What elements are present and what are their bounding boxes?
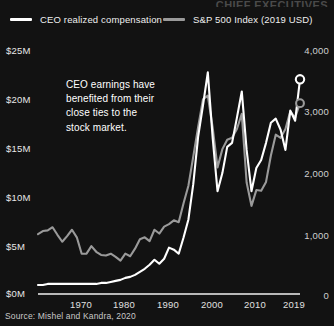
legend-label-sp500: S&P 500 Index (2019 USD) [193, 14, 313, 25]
plot-svg [0, 30, 334, 302]
chart-container: CHIEF EXECUTIVES CEO realized compensati… [0, 0, 334, 326]
annotation-line-3: close ties to the [66, 106, 191, 120]
legend-label-ceo: CEO realized compensation [40, 14, 162, 25]
endpoint-marker-sp500 [296, 99, 304, 107]
legend-swatch-sp500 [163, 18, 185, 21]
cut-off-title: CHIEF EXECUTIVES [0, 0, 334, 7]
legend-item-ceo[interactable]: CEO realized compensation [10, 11, 162, 27]
legend-item-sp500[interactable]: S&P 500 Index (2019 USD) [163, 11, 313, 27]
source-credit: Source: Mishel and Kandra, 2020 [5, 311, 136, 321]
endpoint-marker-ceo [296, 75, 304, 83]
chart-annotation: CEO earnings have benefited from their c… [66, 78, 191, 135]
annotation-line-2: benefited from their [66, 92, 191, 106]
plot-area [0, 30, 334, 302]
annotation-line-1: CEO earnings have [66, 78, 191, 92]
legend-swatch-ceo [10, 18, 32, 21]
chart-legend: CEO realized compensation S&P 500 Index … [0, 11, 334, 27]
annotation-line-4: stock market. [66, 121, 191, 135]
